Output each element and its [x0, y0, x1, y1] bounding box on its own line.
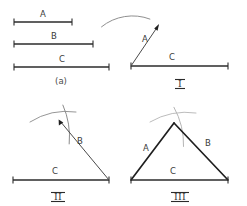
given-segment-b	[14, 41, 93, 48]
panel-label-iii: III	[171, 191, 189, 202]
label-baseline-c-step1: C	[169, 52, 175, 62]
panel-ii: B C II	[13, 105, 109, 202]
label-side-c-step3: C	[170, 166, 176, 176]
label-side-a-step3: A	[143, 143, 149, 153]
ray-segment-b-step2	[60, 121, 109, 180]
panel-label-a: (a)	[55, 76, 67, 86]
label-baseline-c-step2: C	[52, 166, 58, 176]
arc-radius-a-step3	[150, 112, 196, 122]
panel-label-i: I	[175, 78, 185, 89]
label-ray-b-step2: B	[77, 136, 83, 146]
baseline-c-step2	[13, 177, 109, 184]
panel-iii: A B C III	[131, 107, 228, 202]
arc-radius-a-step1	[100, 13, 149, 27]
triangle-side-b	[174, 123, 228, 180]
panel-label-ii: II	[51, 191, 65, 202]
baseline-c-step1	[131, 63, 228, 70]
label-side-b-step3: B	[205, 138, 211, 148]
panel-a: A B C (a)	[14, 9, 109, 86]
panel-i: A C I	[100, 13, 228, 89]
geometry-construction-figure: A B C (a) A C I	[0, 0, 247, 206]
label-segment-b: B	[51, 31, 57, 41]
label-ray-a-step1: A	[142, 34, 148, 44]
triangle-side-a	[131, 123, 174, 180]
label-segment-a: A	[40, 9, 46, 19]
triangle-side-c	[131, 177, 228, 184]
arc-radius-a-step2	[30, 111, 76, 122]
label-segment-c: C	[59, 54, 65, 64]
construction-canvas: A B C (a) A C I	[0, 0, 247, 206]
ray-segment-a-step1	[131, 26, 158, 66]
given-segment-c	[14, 64, 109, 71]
given-segment-a	[14, 19, 72, 26]
